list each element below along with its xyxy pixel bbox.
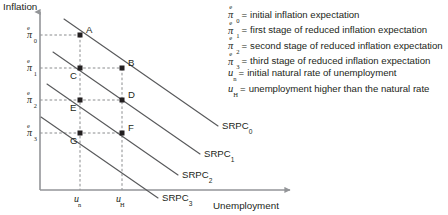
point-label-d: D [128,89,135,100]
data-point-d [120,98,125,103]
legend-equals-2: = [242,38,248,54]
y-tick-label-0: πe0 [18,28,38,42]
legend-equals-0: = [242,7,248,23]
legend-symbol-5: uH [228,81,238,101]
data-point-f [120,131,125,136]
legend-equals-1: = [242,22,248,38]
data-point-e [78,98,83,103]
curve-srpc3 [41,117,158,198]
y-tick-label-2: πe2 [18,93,38,107]
legend-text-1: first stage of reduced inflation expecta… [250,22,427,38]
curve-label-srpc3: SRPC3 [162,192,192,205]
point-label-b: B [128,57,134,68]
legend-text-2: second stage of reduced inflation expect… [250,38,443,54]
phillips-curve-figure: Inflation Unemployment πe0πe1πe2πe3 unuH… [0,0,448,215]
data-points [78,33,125,136]
x-tick-label-1: uH [116,193,126,206]
legend-text-5: unemployment higher than the natural rat… [249,81,430,97]
data-point-g [78,131,83,136]
point-label-f: F [128,122,134,133]
curve-srpc2 [47,84,178,175]
legend: πe0=initial inflation expectationπe1=fir… [228,3,448,97]
legend-equals-5: = [240,81,246,97]
point-label-g: G [70,135,77,146]
curve-label-srpc0: SRPC0 [222,120,252,133]
y-tick-label-1: πe1 [18,61,38,75]
curve-label-srpc1: SRPC1 [204,148,234,161]
data-point-a [78,33,83,38]
y-axis-title: Inflation [3,1,37,12]
gridlines [40,35,122,190]
legend-text-4: initial natural rate of unemployment [247,65,396,81]
curve-srpc0 [64,19,218,126]
point-label-a: A [86,24,92,35]
x-axis-title: Unemployment [213,200,279,211]
legend-text-0: initial inflation expectation [250,7,359,23]
point-label-e: E [70,102,76,113]
data-point-c [78,66,83,71]
data-point-b [120,66,125,71]
point-label-c: C [70,70,77,81]
legend-item-0: πe0=initial inflation expectation [228,3,448,19]
x-tick-label-0: un [74,193,82,206]
y-tick-label-3: πe3 [18,126,38,140]
legend-item-5: uH=unemployment higher than the natural … [228,81,448,97]
curve-label-srpc2: SRPC2 [182,169,212,182]
